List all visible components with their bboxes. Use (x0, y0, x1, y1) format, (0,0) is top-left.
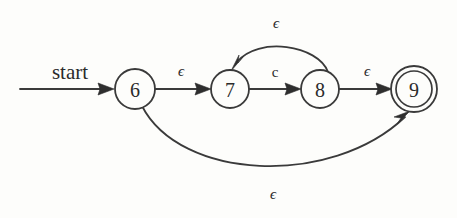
edge-7-to-8: c (249, 64, 301, 95)
state-9-label: 9 (409, 79, 419, 101)
edge-8-to-7-back-arc (237, 46, 328, 72)
state-node-8[interactable]: 8 (301, 70, 339, 108)
edge-8-to-9: ϵ (339, 63, 392, 95)
edge-6-to-9-arrow-head-icon (394, 111, 410, 124)
edge-6-to-9-arc (142, 106, 405, 166)
state-7-label: 7 (225, 79, 235, 101)
edge-6-to-7: ϵ (155, 63, 211, 95)
edge-7-to-8-label: c (272, 64, 279, 80)
start-arrow (20, 83, 114, 95)
state-node-9[interactable]: 9 (391, 66, 437, 112)
state-6-label: 6 (130, 79, 140, 101)
edge-6-to-9-label: ϵ (270, 186, 277, 202)
edge-8-to-7-label: ϵ (273, 15, 280, 31)
nfa-diagram: start ϵ c ϵ ϵ ϵ (0, 0, 457, 218)
start-label: start (52, 60, 88, 84)
state-node-6[interactable]: 6 (115, 69, 155, 109)
edge-8-to-7-back: ϵ (231, 15, 328, 72)
edge-8-to-9-label: ϵ (364, 63, 371, 79)
edge-6-to-7-arrow-head-icon (195, 83, 211, 95)
state-8-label: 8 (315, 79, 325, 101)
edge-8-to-9-arrow-head-icon (376, 83, 392, 95)
nfa-canvas: start ϵ c ϵ ϵ ϵ (0, 0, 457, 218)
edge-6-to-9: ϵ (142, 106, 410, 202)
start-arrow-head-icon (98, 83, 114, 95)
edge-7-to-8-arrow-head-icon (285, 83, 301, 95)
edge-6-to-7-label: ϵ (178, 63, 185, 79)
state-node-7[interactable]: 7 (211, 70, 249, 108)
